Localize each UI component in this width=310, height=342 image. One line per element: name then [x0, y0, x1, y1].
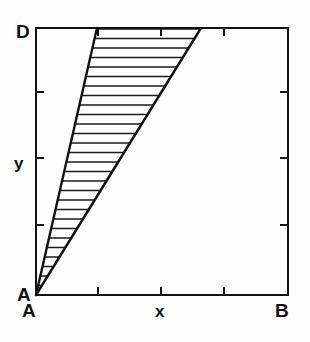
x-axis-label: x	[155, 303, 164, 320]
diagram-canvas	[0, 0, 310, 342]
y-axis-label: y	[14, 155, 23, 172]
figure-root: D A A B y x	[0, 0, 310, 342]
corner-label-d: D	[16, 22, 30, 41]
corner-label-a-below: A	[22, 301, 36, 320]
corner-label-b: B	[275, 301, 289, 320]
